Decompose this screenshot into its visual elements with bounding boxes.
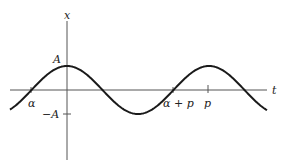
x-axis-label: x [64, 9, 71, 22]
period-label: p [204, 97, 211, 110]
t-axis-label: t [272, 84, 277, 97]
amplitude-label: A [52, 53, 61, 66]
alpha-plus-p-label: α + p [163, 97, 194, 110]
graph-canvas: x t A −A α α + p p [0, 0, 285, 162]
neg-amplitude-label: −A [42, 108, 59, 121]
alpha-label: α [28, 97, 36, 110]
